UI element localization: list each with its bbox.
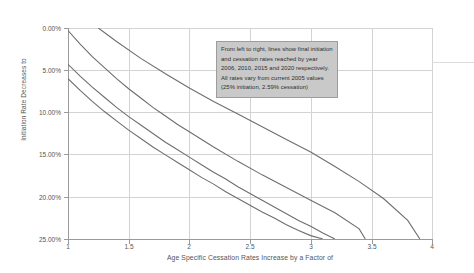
x-tick-label-3p5: 3.5: [359, 243, 385, 250]
y-tick-label-0: 0.00%: [21, 25, 61, 32]
x-tick-label-1: 1: [55, 243, 81, 250]
gridline-x-4: [432, 28, 433, 239]
y-tick-label-20: 20.00%: [21, 194, 61, 201]
x-tick-label-4: 4: [419, 243, 445, 250]
y-tick-label-10: 10.00%: [21, 109, 61, 116]
annotation-textbox: From left to right, lines show final ini…: [216, 41, 338, 98]
y-tick-label-25: 25.00%: [21, 236, 61, 243]
y-axis-title: Initiation Rate Decreases to: [20, 40, 27, 160]
x-tick-label-1p5: 1.5: [116, 243, 142, 250]
stray-rule-artifact: [432, 62, 474, 63]
data-curve-2020: [68, 79, 323, 239]
x-tick-label-2: 2: [176, 243, 202, 250]
x-tick-label-2p5: 2.5: [237, 243, 263, 250]
y-tick-label-5: 5.00%: [21, 67, 61, 74]
chart-figure: 0.00% 5.00% 10.00% 15.00% 20.00% 25.00% …: [0, 0, 474, 273]
x-tick-label-3: 3: [298, 243, 324, 250]
y-tick-label-15: 15.00%: [21, 151, 61, 158]
x-axis-title: Age Specific Cessation Rates Increase by…: [68, 254, 432, 261]
